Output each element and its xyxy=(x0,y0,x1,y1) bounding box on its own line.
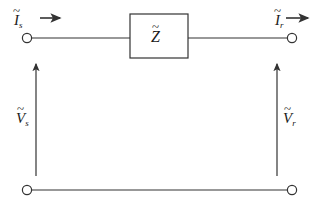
label-sending-current-symbol: ~ I xyxy=(14,13,19,28)
label-receiving-current: ~ I r xyxy=(275,12,284,30)
label-sending-current: ~ I s xyxy=(14,12,23,30)
label-sending-current-subscript: s xyxy=(19,20,23,30)
label-receiving-current-subscript: r xyxy=(280,20,284,30)
label-impedance-symbol: ~ Z xyxy=(151,29,160,45)
tilde-accent-icon: ~ xyxy=(152,20,159,33)
label-receiving-voltage-symbol: ~ V xyxy=(283,111,292,126)
terminal-bottom-left xyxy=(22,185,31,194)
label-receiving-voltage: ~ V r xyxy=(283,110,296,128)
label-sending-voltage: ~ V s xyxy=(16,110,29,128)
label-receiving-current-symbol: ~ I xyxy=(275,13,280,28)
label-receiving-voltage-subscript: r xyxy=(292,118,296,128)
terminal-top-left xyxy=(22,33,31,42)
label-impedance: ~ Z xyxy=(151,29,160,47)
label-sending-voltage-subscript: s xyxy=(25,118,29,128)
terminal-bottom-right xyxy=(287,185,296,194)
circuit-diagram: ~ I s ~ I r ~ V s ~ V r ~ Z xyxy=(0,0,318,210)
tilde-accent-icon: ~ xyxy=(17,102,24,115)
tilde-accent-icon: ~ xyxy=(274,4,281,17)
label-sending-voltage-symbol: ~ V xyxy=(16,111,25,126)
tilde-accent-icon: ~ xyxy=(284,102,291,115)
tilde-accent-icon: ~ xyxy=(13,4,20,17)
terminal-top-right xyxy=(287,33,296,42)
